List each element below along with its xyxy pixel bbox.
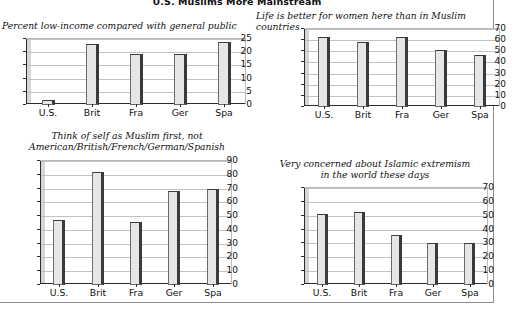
figure-title: U.S. Muslims More Mainstream xyxy=(0,0,474,7)
bar xyxy=(464,243,475,285)
bar xyxy=(218,42,231,105)
x-axis-tick-label: Fra xyxy=(129,107,143,118)
y-axis-tick-mark xyxy=(301,256,304,257)
bar xyxy=(86,44,99,105)
y-axis-tick-mark xyxy=(301,95,304,96)
y-axis-tick-mark xyxy=(301,50,304,51)
gridline xyxy=(26,52,245,53)
bar-chart-islamic-extremism: 010203040506070U.S.BritFraGerSpa xyxy=(280,182,494,300)
gridline xyxy=(304,29,499,30)
x-axis-tick-label: Ger xyxy=(172,107,189,118)
y-axis-tick-label: 30 xyxy=(488,68,506,78)
bar xyxy=(427,243,438,285)
bar xyxy=(174,54,187,105)
chart-panel-low-income: Percent low-income compared with general… xyxy=(2,20,252,120)
y-axis-tick-mark xyxy=(23,78,26,79)
bar xyxy=(354,212,365,285)
y-axis-tick-mark xyxy=(23,64,26,65)
bar xyxy=(130,54,143,105)
y-axis-tick-label: 50 xyxy=(488,45,506,55)
plot-area xyxy=(26,38,246,104)
x-axis-tick-label: Brit xyxy=(90,287,106,298)
gridline xyxy=(40,202,231,203)
gridline xyxy=(304,216,487,217)
chart-panel-muslim-first: Think of self as Muslim first, not Ameri… xyxy=(2,130,252,300)
chart-panel-life-better-women: Life is better for women here than in Mu… xyxy=(256,10,506,122)
y-axis-line xyxy=(304,29,305,106)
x-axis-tick-label: Fra xyxy=(395,109,409,120)
bar-chart-muslim-first: 0102030405060708090U.S.BritFraGerSpa xyxy=(16,155,238,300)
bar xyxy=(391,235,402,285)
y-axis-tick-label: 0 xyxy=(220,279,238,289)
y-axis-tick-label: 30 xyxy=(476,237,494,247)
y-axis-tick-mark xyxy=(301,106,304,107)
bar-chart-low-income: 0510152025U.S.BritFraGerSpa xyxy=(2,33,252,120)
chart-panel-islamic-extremism: Very concerned about Islamic extremism i… xyxy=(256,158,506,300)
y-axis-tick-mark xyxy=(301,215,304,216)
y-axis-tick-mark xyxy=(37,284,40,285)
x-axis-tick-label: Fra xyxy=(129,287,143,298)
gridline xyxy=(304,188,487,189)
x-axis-tick-label: U.S. xyxy=(50,287,69,298)
x-axis-tick-label: Ger xyxy=(433,109,450,120)
y-axis-tick-label: 10 xyxy=(476,265,494,275)
y-axis-tick-label: 25 xyxy=(234,33,252,43)
bar xyxy=(318,37,330,107)
y-axis-tick-label: 40 xyxy=(476,224,494,234)
y-axis-tick-mark xyxy=(23,38,26,39)
x-axis-tick-label: Ger xyxy=(425,287,442,298)
x-axis-tick-label: Brit xyxy=(355,109,371,120)
y-axis-tick-label: 15 xyxy=(234,59,252,69)
gridline xyxy=(40,216,231,217)
x-axis-tick-label: Ger xyxy=(166,287,183,298)
y-axis-tick-mark xyxy=(301,284,304,285)
y-axis-tick-label: 60 xyxy=(220,196,238,206)
y-axis-tick-label: 50 xyxy=(220,210,238,220)
y-axis-tick-mark xyxy=(301,28,304,29)
y-axis-tick-mark xyxy=(301,229,304,230)
y-axis-tick-mark xyxy=(23,51,26,52)
bar xyxy=(53,220,65,285)
gridline xyxy=(304,230,487,231)
bar xyxy=(130,222,142,285)
x-axis-tick-label: Spa xyxy=(471,109,489,120)
y-axis-tick-label: 10 xyxy=(488,90,506,100)
y-axis-tick-label: 80 xyxy=(220,169,238,179)
x-axis-tick-label: Fra xyxy=(389,287,403,298)
x-axis-tick-label: Brit xyxy=(84,107,100,118)
x-axis-tick-label: Spa xyxy=(215,107,233,118)
gridline xyxy=(40,189,231,190)
plot-area xyxy=(40,160,232,284)
x-axis-tick-label: U.S. xyxy=(39,107,58,118)
y-axis-tick-mark xyxy=(301,39,304,40)
y-axis-tick-label: 5 xyxy=(234,86,252,96)
y-axis-tick-mark xyxy=(37,174,40,175)
x-axis-tick-label: Spa xyxy=(461,287,479,298)
y-axis-tick-label: 10 xyxy=(220,265,238,275)
y-axis-tick-label: 60 xyxy=(488,34,506,44)
x-axis-tick-label: Spa xyxy=(204,287,222,298)
y-axis-tick-label: 20 xyxy=(488,79,506,89)
y-axis-tick-label: 40 xyxy=(220,224,238,234)
y-axis-line xyxy=(40,161,41,284)
plot-area xyxy=(304,187,488,284)
x-axis-tick-label: Brit xyxy=(351,287,367,298)
y-axis-line xyxy=(26,39,27,104)
y-axis-tick-label: 30 xyxy=(220,238,238,248)
y-axis-tick-label: 10 xyxy=(234,73,252,83)
y-axis-tick-mark xyxy=(301,242,304,243)
bar xyxy=(92,172,104,285)
y-axis-line xyxy=(304,188,305,284)
y-axis-tick-label: 20 xyxy=(220,251,238,261)
y-axis-tick-mark xyxy=(37,188,40,189)
y-axis-tick-mark xyxy=(37,160,40,161)
y-axis-tick-mark xyxy=(301,61,304,62)
y-axis-tick-mark xyxy=(37,270,40,271)
y-axis-tick-mark xyxy=(37,229,40,230)
y-axis-tick-label: 60 xyxy=(476,196,494,206)
y-axis-tick-mark xyxy=(301,201,304,202)
y-axis-tick-mark xyxy=(23,91,26,92)
bar xyxy=(435,50,447,107)
y-axis-tick-mark xyxy=(37,201,40,202)
bar xyxy=(396,37,408,107)
